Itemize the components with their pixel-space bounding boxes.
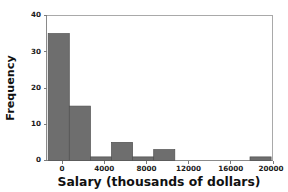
y-tick-label: 20 bbox=[31, 83, 41, 92]
y-axis-ticks: 0 10 20 30 40 bbox=[31, 10, 47, 164]
y-tick-label: 40 bbox=[31, 10, 41, 19]
y-tick-label: 10 bbox=[31, 119, 41, 128]
y-tick-label: 30 bbox=[31, 47, 41, 56]
histogram-bar bbox=[69, 106, 90, 160]
x-axis-title: Salary (thousands of dollars) bbox=[58, 174, 261, 189]
x-tick-label: 12000 bbox=[176, 164, 201, 173]
x-tick-label: 0 bbox=[59, 164, 64, 173]
x-tick-label: 20000 bbox=[258, 164, 283, 173]
histogram-bar bbox=[250, 157, 271, 161]
histogram-bar bbox=[154, 150, 175, 161]
histogram-chart: 0 10 20 30 40 0 4000 8 bbox=[0, 0, 288, 192]
histogram-svg: 0 10 20 30 40 0 4000 8 bbox=[0, 0, 288, 192]
x-tick-label: 4000 bbox=[94, 164, 114, 173]
histogram-bars bbox=[48, 34, 271, 161]
histogram-bar bbox=[133, 157, 154, 161]
x-tick-label: 8000 bbox=[136, 164, 156, 173]
x-tick-label: 16000 bbox=[218, 164, 243, 173]
x-axis-ticks: 0 4000 8000 12000 16000 20000 bbox=[59, 161, 283, 174]
y-tick-label: 0 bbox=[36, 155, 41, 164]
histogram-bar bbox=[112, 142, 133, 160]
histogram-bar bbox=[90, 157, 111, 161]
y-axis-title: Frequency bbox=[4, 55, 17, 121]
histogram-bar bbox=[48, 34, 69, 161]
